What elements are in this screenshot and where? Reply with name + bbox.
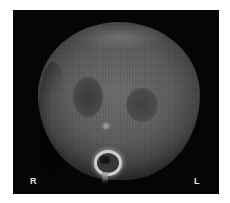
spinous-process <box>102 172 108 184</box>
organ-region-left <box>73 77 103 117</box>
abdomen-cross-section <box>38 22 200 180</box>
orientation-label-left: L <box>194 177 200 186</box>
organ-region-right <box>126 88 158 122</box>
lateral-shadow <box>38 62 68 172</box>
anterior-wall <box>73 24 168 50</box>
spinal-canal <box>100 156 110 164</box>
orientation-label-right: R <box>30 177 37 186</box>
vessel-spot <box>101 122 111 130</box>
ct-scan-frame: R L <box>13 10 219 194</box>
